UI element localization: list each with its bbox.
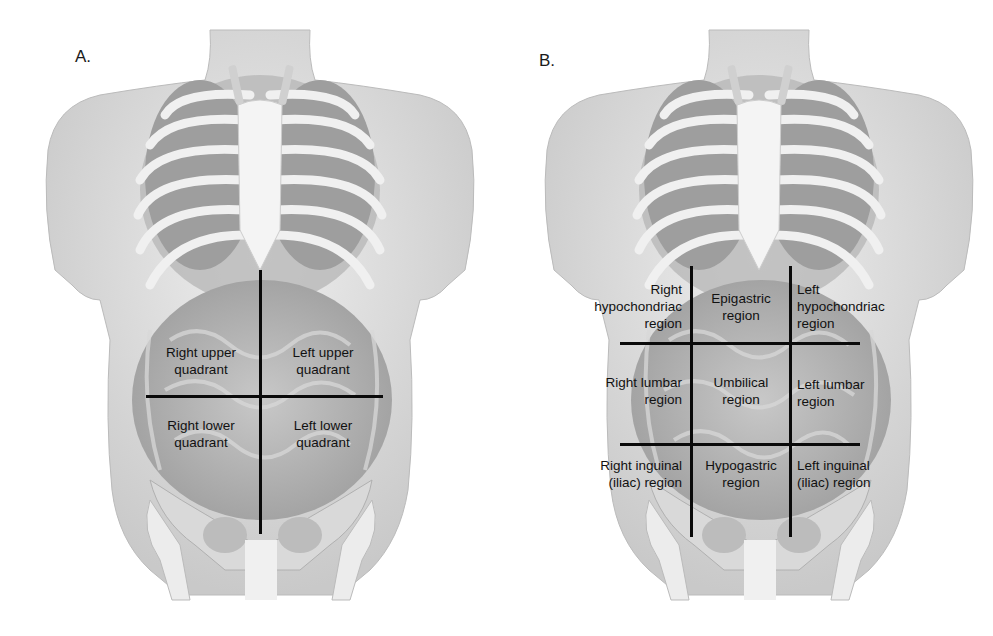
panel-letter: B. — [539, 51, 555, 71]
subcostal-horizontal-line — [620, 342, 860, 345]
panel-b-nine-regions: B. Right hypochondriac region Epigastric… — [496, 0, 993, 636]
label-right-inguinal-iliac-region: Right inguinal (iliac) region — [556, 457, 682, 491]
transumbilical-horizontal-line — [146, 395, 383, 398]
label-left-upper-quadrant: Left upper quadrant — [273, 344, 373, 378]
label-right-upper-quadrant: Right upper quadrant — [150, 344, 252, 378]
label-left-lumbar-region: Left lumbar region — [797, 376, 907, 410]
intertubercular-horizontal-line — [620, 443, 860, 446]
label-left-hypochondriac-region: Left hypochondriac region — [797, 281, 907, 332]
label-left-lower-quadrant: Left lower quadrant — [273, 417, 373, 451]
panel-letter: A. — [75, 47, 91, 67]
label-left-inguinal-iliac-region: Left inguinal (iliac) region — [797, 457, 917, 491]
torso-illustration — [0, 0, 496, 636]
label-epigastric-region: Epigastric region — [695, 290, 787, 324]
left-midclavicular-vertical-line — [789, 266, 792, 537]
label-right-lower-quadrant: Right lower quadrant — [150, 417, 252, 451]
midline-vertical — [259, 270, 262, 534]
right-midclavicular-vertical-line — [690, 266, 693, 537]
panel-a-four-quadrants: A. Right upper quadrant Left upper quadr… — [0, 0, 496, 636]
label-hypogastric-region: Hypogastric region — [692, 457, 790, 491]
label-right-hypochondriac-region: Right hypochondriac region — [566, 281, 682, 332]
label-umbilical-region: Umbilical region — [695, 374, 787, 408]
label-right-lumbar-region: Right lumbar region — [566, 374, 682, 408]
